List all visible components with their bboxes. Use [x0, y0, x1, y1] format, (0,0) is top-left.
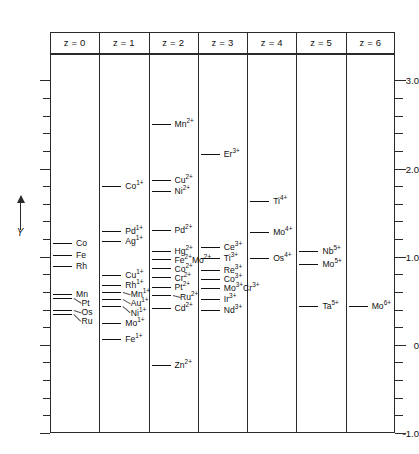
level-label: Ag1+: [125, 236, 143, 246]
level-mark: [250, 201, 269, 202]
y-tick-minor: [43, 221, 50, 222]
right-tick-minor: [395, 186, 403, 187]
level-mark: [250, 232, 269, 233]
level-label: Nd3+: [224, 305, 242, 315]
level-mark: [152, 124, 171, 125]
right-tick-major: [395, 433, 406, 434]
level-mark: [102, 323, 121, 324]
right-tick-major: [395, 345, 406, 346]
right-tick-minor: [395, 133, 403, 134]
y-tick-minor: [43, 380, 50, 381]
column-separator: [247, 32, 248, 433]
level-mark: [102, 285, 121, 286]
y-tick-major: [40, 345, 50, 346]
level-label: Mo6+: [372, 301, 391, 311]
level-label: Rh: [76, 261, 87, 271]
column-header-2: z = 2: [149, 32, 198, 54]
y-tick-minor: [43, 362, 50, 363]
level-label: Ti3+: [224, 253, 238, 263]
level-label: Ni2+: [175, 186, 190, 196]
right-tick-minor: [395, 327, 403, 328]
y-axis-arrow: [20, 196, 21, 230]
level-label: Ru: [82, 316, 93, 326]
right-tick-minor: [395, 98, 403, 99]
right-tick-minor: [395, 116, 403, 117]
level-label: Co: [76, 238, 87, 248]
level-label: Nb5+: [322, 246, 340, 256]
level-mark: [201, 279, 220, 280]
y-tick-minor: [43, 98, 50, 99]
right-tick-minor: [395, 292, 403, 293]
column-separator: [198, 32, 199, 433]
right-tick-major: [395, 169, 406, 170]
level-mark: [349, 306, 368, 307]
y-tick-minor: [43, 327, 50, 328]
level-mark: [53, 298, 72, 299]
level-mark: [201, 154, 220, 155]
right-tick-minor: [395, 204, 403, 205]
y-tick-major: [40, 433, 50, 434]
level-label: Mo5+: [322, 259, 341, 269]
level-mark: [250, 258, 269, 259]
column-separator: [296, 32, 297, 433]
level-mark: [152, 180, 171, 181]
column-header-4: z = 4: [247, 32, 296, 54]
level-mark: [102, 339, 121, 340]
level-label: Mo1+: [125, 318, 144, 328]
y-tick-minor: [43, 310, 50, 311]
level-label: Fe: [76, 250, 86, 260]
y-tick-major: [40, 257, 50, 258]
level-mark: [102, 292, 121, 293]
level-mark: [152, 230, 171, 231]
level-mark: [53, 294, 72, 295]
level-label: Er3+: [224, 149, 240, 159]
level-label: Ce3+: [224, 242, 242, 252]
right-tick-minor: [395, 239, 403, 240]
level-label: Ti4+: [273, 196, 287, 206]
right-tick-minor: [395, 274, 403, 275]
level-mark: [152, 365, 171, 366]
right-tick-minor: [395, 380, 403, 381]
column-separator: [149, 32, 150, 433]
y-tick-minor: [43, 274, 50, 275]
level-mark: [152, 295, 171, 296]
y-tick-minor: [43, 204, 50, 205]
level-mark: [53, 314, 72, 315]
level-mark: [152, 251, 171, 252]
y-tick-minor: [43, 116, 50, 117]
y-tick-minor: [43, 415, 50, 416]
y-tick-minor: [43, 239, 50, 240]
level-mark: [201, 310, 220, 311]
level-mark: [299, 306, 318, 307]
level-mark: [299, 251, 318, 252]
y-tick-major: [40, 80, 50, 81]
level-mark: [152, 259, 171, 260]
level-mark: [102, 306, 121, 307]
column-header-3: z = 3: [198, 32, 247, 54]
y-tick-minor: [43, 398, 50, 399]
column-header-5: z = 5: [296, 32, 345, 54]
right-tick-minor: [395, 151, 403, 152]
level-mark: [201, 258, 220, 259]
right-tick-minor: [395, 221, 403, 222]
level-mark: [53, 243, 72, 244]
y-tick-minor: [43, 151, 50, 152]
level-mark: [102, 241, 121, 242]
right-tick-minor: [395, 310, 403, 311]
plot-body-frame: [50, 54, 395, 433]
level-mark: [152, 308, 171, 309]
right-tick-minor: [395, 415, 403, 416]
column-separator: [346, 32, 347, 433]
level-mark: [201, 270, 220, 271]
level-label: Zn2+: [175, 360, 192, 370]
level-mark: [152, 287, 171, 288]
level-mark: [201, 288, 220, 289]
y-tick-minor: [43, 292, 50, 293]
level-mark: [102, 186, 121, 187]
right-tick-major: [395, 80, 406, 81]
level-mark: [102, 231, 121, 232]
right-tick-minor: [395, 398, 403, 399]
y-axis-title: Y: [17, 227, 24, 238]
level-mark: [53, 266, 72, 267]
y-tick-minor: [43, 186, 50, 187]
